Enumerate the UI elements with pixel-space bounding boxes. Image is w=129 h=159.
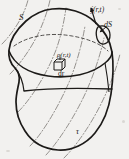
- label-volume-element: dr: [58, 70, 64, 78]
- top-cap-hidden-rim: [14, 34, 108, 51]
- label-volume-tau: τ: [76, 128, 79, 136]
- label-current-density: j(r,t): [91, 6, 104, 14]
- label-charge-density: ρ(r,t): [57, 52, 71, 59]
- label-surface-S: S: [19, 13, 24, 22]
- label-surface-element: dS: [104, 21, 112, 29]
- right-body-seam: [105, 63, 109, 92]
- volume-body-outline: [9, 9, 113, 151]
- mid-cut-line: [24, 88, 112, 91]
- figure-container: S j(r,t) dS ρ(r,t) dr τ: [0, 0, 129, 159]
